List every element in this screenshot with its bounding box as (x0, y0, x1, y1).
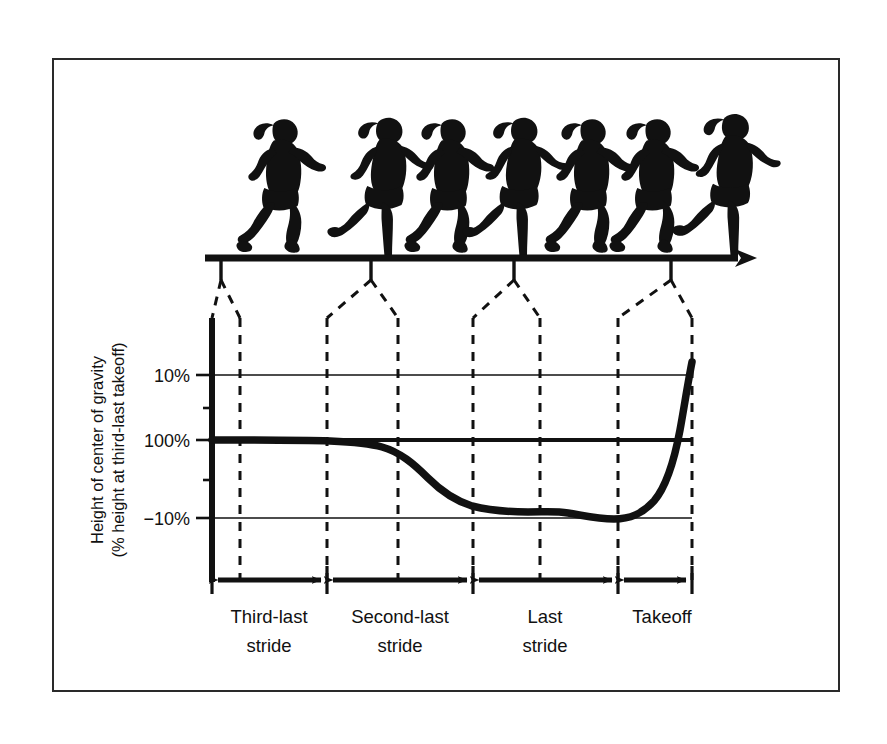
segment-label-second-last: Second-last stride (351, 606, 449, 656)
segment-label-third-last-line1: Third-last (230, 606, 307, 627)
segment-label-last: Last stride (522, 606, 567, 656)
y-axis-label-line1: Height of center of gravity (88, 355, 106, 544)
plot-vertical-guides (240, 318, 692, 580)
y-tick-label-10: 10% (154, 366, 190, 386)
y-axis-label: Height of center of gravity (% height at… (88, 342, 127, 557)
y-tick-label-100: 100% (144, 431, 190, 451)
figure-canvas: 10% 100% −10% Height of center of gravit… (0, 0, 887, 744)
segment-label-third-last: Third-last stride (230, 606, 307, 656)
segment-label-second-last-line2: stride (377, 635, 422, 656)
y-axis-label-line2: (% height at third-last takeoff) (109, 342, 127, 557)
segment-label-second-last-line1: Second-last (351, 606, 449, 627)
figure-root: 10% 100% −10% Height of center of gravit… (0, 0, 887, 744)
ground-arrow-head (735, 249, 757, 267)
ground-line (205, 249, 757, 267)
segment-label-last-line1: Last (528, 606, 563, 627)
runner-sequence (237, 114, 781, 258)
y-tick-label-minus10: −10% (143, 509, 190, 529)
segment-label-third-last-line2: stride (246, 635, 291, 656)
runner-silhouette-1 (237, 119, 327, 253)
segment-label-last-line2: stride (522, 635, 567, 656)
projection-lines (212, 280, 692, 318)
segment-label-takeoff: Takeoff (632, 606, 692, 627)
runner-silhouette-7 (672, 114, 780, 257)
segment-label-takeoff-line1: Takeoff (632, 606, 692, 627)
